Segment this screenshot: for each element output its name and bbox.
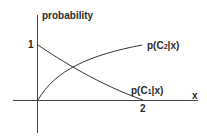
- y-tick-1: 1: [28, 39, 34, 50]
- posterior-probability-diagram: probability 1 2 x p(C2|x) p(C1|x): [0, 0, 207, 138]
- y-axis-label: probability: [42, 10, 94, 21]
- label-p-c1-rest: |x): [152, 85, 164, 96]
- label-p-c2-rest: |x): [168, 40, 180, 51]
- curve-p-c2: [38, 45, 142, 100]
- label-p-c1-main: p(C: [131, 85, 148, 96]
- curve-p-c1: [38, 45, 143, 100]
- x-tick-2: 2: [140, 103, 146, 114]
- x-axis-label: x: [192, 90, 198, 101]
- label-p-c2-main: p(C: [147, 40, 164, 51]
- label-p-c2: p(C2|x): [147, 40, 179, 51]
- label-p-c1: p(C1|x): [131, 85, 163, 96]
